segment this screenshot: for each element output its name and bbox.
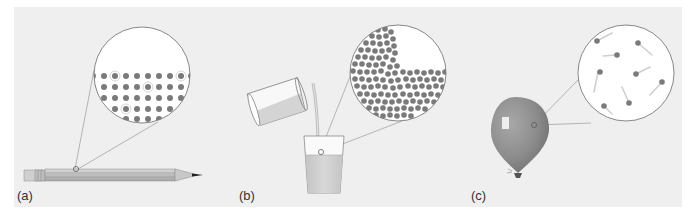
panel-a-solid xyxy=(24,27,203,181)
gas-molecule-inset xyxy=(578,25,674,121)
zoom-line xyxy=(75,70,94,169)
panel-label-c: (c) xyxy=(471,188,486,203)
panel-label-a: (a) xyxy=(17,188,33,203)
panel-b-liquid xyxy=(246,25,448,193)
solid-molecule-inset xyxy=(90,27,194,123)
liquid-molecule-inset xyxy=(350,25,448,121)
panel-c-gas xyxy=(491,25,674,178)
pencil xyxy=(24,166,203,181)
receiving-glass xyxy=(304,136,344,193)
balloon xyxy=(491,97,549,178)
states-of-matter-figure xyxy=(0,0,698,215)
panel-label-b: (b) xyxy=(239,188,255,203)
zoom-line xyxy=(78,122,158,169)
